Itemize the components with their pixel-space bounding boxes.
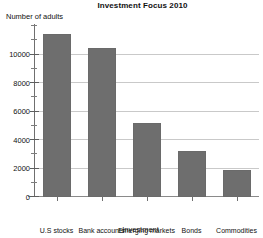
y-axis-tick: [30, 168, 39, 169]
y-axis-tick-label: 0: [26, 193, 30, 201]
bar-chart: Investment Focus 2010 Number of adults 0…: [0, 0, 263, 238]
y-axis-minor-tick: [31, 25, 37, 26]
x-axis-tick: [147, 196, 148, 201]
y-axis-tick: [30, 82, 39, 83]
bar: [88, 48, 116, 197]
bar: [178, 151, 206, 197]
y-axis-tick: [30, 111, 39, 112]
x-axis-title: Investment: [0, 225, 263, 234]
y-axis-minor-tick: [31, 125, 37, 126]
bar: [43, 34, 71, 197]
x-axis-tick: [237, 196, 238, 201]
y-axis-tick-label: 8000: [13, 79, 30, 87]
y-axis-minor-tick: [31, 39, 37, 40]
chart-title: Investment Focus 2010: [0, 1, 263, 10]
y-axis-tick: [30, 196, 39, 197]
plot-area: 0200040006000800010000U.S stocksBank acc…: [34, 26, 259, 197]
y-axis-tick-label: 2000: [13, 165, 30, 173]
y-axis-minor-tick: [31, 153, 37, 154]
bar: [133, 123, 161, 197]
x-axis-tick: [192, 196, 193, 201]
y-axis-minor-tick: [31, 68, 37, 69]
y-axis-tick-label: 6000: [13, 108, 30, 116]
y-axis-title: Number of adults: [6, 12, 63, 21]
x-axis-tick: [57, 196, 58, 201]
y-axis-minor-tick: [31, 182, 37, 183]
y-axis-tick: [30, 54, 39, 55]
y-axis-tick-label: 10000: [9, 51, 30, 59]
y-axis-tick-label: 4000: [13, 136, 30, 144]
y-axis-tick: [30, 139, 39, 140]
y-axis-minor-tick: [31, 96, 37, 97]
bar: [223, 170, 251, 197]
x-axis-tick: [102, 196, 103, 201]
